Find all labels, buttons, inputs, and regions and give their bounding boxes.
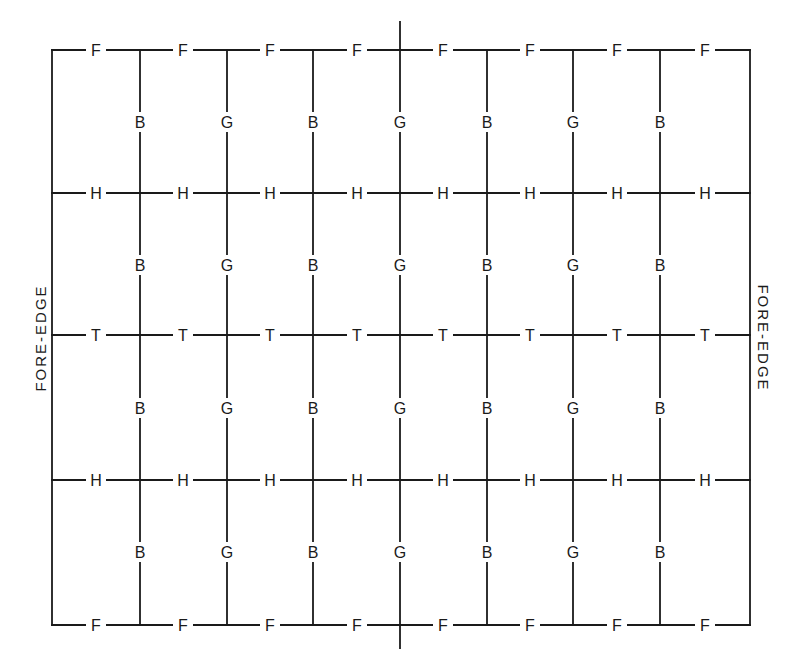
row-label-f: F xyxy=(612,42,622,59)
row-label-t: T xyxy=(91,327,101,344)
column-label-g: G xyxy=(394,257,406,274)
imposition-diagram: FFFFFFFFHHHHHHHHTTTTTTTTHHHHHHHHFFFFFFFF… xyxy=(0,0,800,671)
row-label-f: F xyxy=(352,42,362,59)
row-label-f: F xyxy=(178,617,188,634)
column-label-b: B xyxy=(482,544,493,561)
column-label-b: B xyxy=(308,257,319,274)
column-label-g: G xyxy=(394,400,406,417)
row-label-h: H xyxy=(437,472,449,489)
column-label-g: G xyxy=(567,544,579,561)
column-label-b: B xyxy=(655,544,666,561)
column-label-b: B xyxy=(135,400,146,417)
row-label-h: H xyxy=(351,472,363,489)
column-label-g: G xyxy=(221,257,233,274)
row-label-t: T xyxy=(525,327,535,344)
row-label-f: F xyxy=(265,617,275,634)
row-label-h: H xyxy=(699,472,711,489)
row-label-t: T xyxy=(700,327,710,344)
row-label-t: T xyxy=(612,327,622,344)
row-label-f: F xyxy=(438,42,448,59)
column-label-b: B xyxy=(655,400,666,417)
row-label-f: F xyxy=(178,42,188,59)
row-label-h: H xyxy=(90,185,102,202)
column-label-g: G xyxy=(394,544,406,561)
fore-edge-label-left: FORE-EDGE xyxy=(32,284,49,391)
row-label-h: H xyxy=(177,185,189,202)
column-label-g: G xyxy=(221,544,233,561)
row-label-f: F xyxy=(91,617,101,634)
column-label-b: B xyxy=(655,114,666,131)
column-label-g: G xyxy=(567,257,579,274)
row-label-f: F xyxy=(265,42,275,59)
row-label-h: H xyxy=(699,185,711,202)
row-label-h: H xyxy=(524,185,536,202)
row-label-f: F xyxy=(352,617,362,634)
row-label-f: F xyxy=(700,42,710,59)
column-label-g: G xyxy=(221,400,233,417)
row-label-t: T xyxy=(265,327,275,344)
column-label-b: B xyxy=(135,114,146,131)
row-label-h: H xyxy=(611,472,623,489)
row-label-f: F xyxy=(612,617,622,634)
row-label-h: H xyxy=(524,472,536,489)
column-label-b: B xyxy=(308,544,319,561)
row-label-f: F xyxy=(525,617,535,634)
row-label-h: H xyxy=(611,185,623,202)
fore-edge-label-right: FORE-EDGE xyxy=(755,284,772,391)
column-label-b: B xyxy=(308,400,319,417)
column-label-b: B xyxy=(135,544,146,561)
row-label-f: F xyxy=(91,42,101,59)
row-label-h: H xyxy=(351,185,363,202)
row-label-h: H xyxy=(437,185,449,202)
column-label-g: G xyxy=(221,114,233,131)
row-label-f: F xyxy=(438,617,448,634)
column-label-b: B xyxy=(308,114,319,131)
row-label-h: H xyxy=(90,472,102,489)
column-label-b: B xyxy=(482,400,493,417)
row-label-h: H xyxy=(264,185,276,202)
column-label-b: B xyxy=(482,114,493,131)
row-label-t: T xyxy=(352,327,362,344)
column-label-b: B xyxy=(135,257,146,274)
column-label-g: G xyxy=(567,114,579,131)
row-label-h: H xyxy=(264,472,276,489)
column-label-b: B xyxy=(655,257,666,274)
row-label-t: T xyxy=(438,327,448,344)
row-label-h: H xyxy=(177,472,189,489)
column-label-g: G xyxy=(567,400,579,417)
column-label-g: G xyxy=(394,114,406,131)
row-label-f: F xyxy=(700,617,710,634)
row-label-f: F xyxy=(525,42,535,59)
row-label-t: T xyxy=(178,327,188,344)
column-label-b: B xyxy=(482,257,493,274)
